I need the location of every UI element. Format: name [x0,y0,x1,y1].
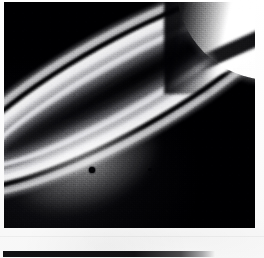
satellite-speck [89,167,95,173]
upper-left-sky-mask [4,2,55,25]
saturn-rings-photograph [4,2,255,228]
ring-particle-speck [148,168,152,171]
paper-seam [0,236,264,237]
bottom-rule [3,251,215,257]
page-root: Saturn ring system viewed at low phase, … [0,0,264,258]
